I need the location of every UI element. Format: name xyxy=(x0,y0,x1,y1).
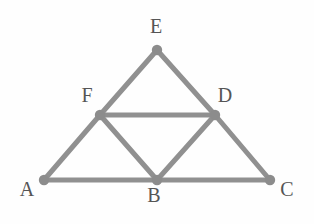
geometry-figure-container: ABCDEF xyxy=(0,0,314,224)
vertex-dot-f xyxy=(95,110,105,120)
vertex-label-c: C xyxy=(280,178,293,200)
vertex-label-d: D xyxy=(218,84,232,106)
vertex-label-a: A xyxy=(20,178,35,200)
geometry-diagram: ABCDEF xyxy=(0,0,314,224)
vertex-dot-c xyxy=(265,175,275,185)
vertex-dot-d xyxy=(210,110,220,120)
vertex-label-b: B xyxy=(147,184,160,206)
vertex-label-e: E xyxy=(150,15,162,37)
vertex-dot-a xyxy=(39,175,49,185)
vertex-label-f: F xyxy=(81,84,92,106)
vertex-dot-e xyxy=(152,45,162,55)
